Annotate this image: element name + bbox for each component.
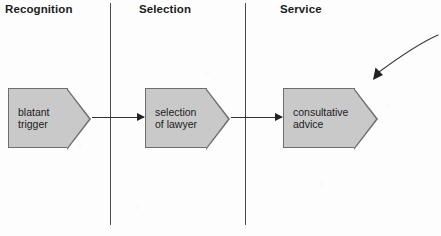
process-node-label: selection of lawyer [146, 106, 197, 131]
connector-arrow-1 [92, 117, 144, 118]
stage-divider-1 [110, 3, 111, 225]
arrowhead-icon [137, 113, 145, 121]
process-node-label: consultative advice [284, 106, 348, 131]
process-flow-diagram: Recognition Selection Service blatant tr… [0, 0, 441, 236]
curved-annotation-arrow-icon [360, 30, 441, 85]
stage-header-recognition: Recognition [5, 3, 73, 15]
chevron-point-icon [67, 88, 91, 150]
process-node-blatant-trigger: blatant trigger [8, 88, 68, 148]
chevron-point-icon [354, 88, 378, 150]
process-node-selection-of-lawyer: selection of lawyer [145, 88, 207, 148]
stage-header-selection: Selection [139, 3, 191, 15]
connector-arrow-2 [231, 117, 282, 118]
process-node-label: blatant trigger [9, 106, 50, 131]
arrowhead-icon [275, 113, 283, 121]
stage-divider-2 [245, 3, 246, 225]
chevron-point-icon [206, 88, 230, 150]
process-node-consultative-advice: consultative advice [283, 88, 355, 148]
stage-header-service: Service [280, 3, 322, 15]
